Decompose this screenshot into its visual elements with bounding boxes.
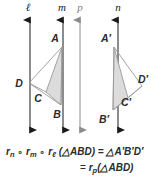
vertex-label-C: C <box>34 92 42 104</box>
image-vertex-labels-group: A′ B′ C′ D′ <box>99 32 149 125</box>
line-label-l: ℓ <box>26 1 31 13</box>
line-label-m: m <box>58 1 66 13</box>
preimage-segment-DC <box>29 83 46 92</box>
mirror-line-labels-group: ℓ m p n <box>26 1 122 13</box>
line-label-n: n <box>115 1 121 13</box>
eq1-op-1: ∘ <box>15 146 27 157</box>
eq2-op-eq: = <box>80 162 89 173</box>
line-label-p: p <box>76 1 83 13</box>
eq1-op-2: ∘ <box>37 146 49 157</box>
figure-canvas: ℓ m p n A B C D <box>0 0 157 178</box>
vertex-label-B-prime: B′ <box>99 113 110 125</box>
equation-group: rn ∘ rm ∘ rℓ (△ABD) = △A′B′D′ = rp(△ABD) <box>6 146 144 175</box>
vertex-label-D: D <box>15 77 23 89</box>
eq2-seg-rest: (△ABD) <box>97 162 134 173</box>
equation-line-1: rn ∘ rm ∘ rℓ (△ABD) = △A′B′D′ <box>6 146 144 159</box>
geometry-figure: ℓ m p n A B C D <box>0 0 157 178</box>
vertex-label-A: A <box>50 32 59 44</box>
vertex-label-A-prime: A′ <box>100 32 112 44</box>
eq1-seg-rest: (△ABD) = △A′B′D′ <box>56 146 144 157</box>
vertex-label-D-prime: D′ <box>138 73 149 85</box>
vertex-label-C-prime: C′ <box>121 96 132 108</box>
equation-line-2: = rp(△ABD) <box>80 162 134 175</box>
vertex-label-B: B <box>53 108 61 120</box>
